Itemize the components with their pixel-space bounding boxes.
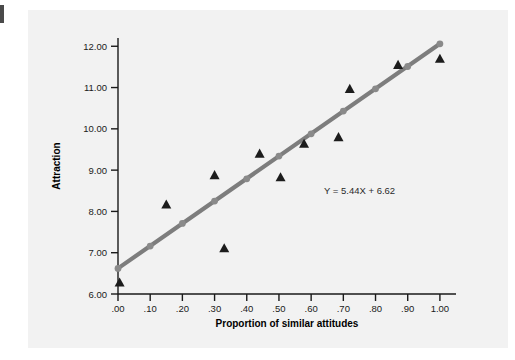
x-tick-label: .80 xyxy=(369,303,382,314)
regression-point-marker xyxy=(243,175,250,182)
regression-point-marker xyxy=(147,243,154,250)
x-tick-label: .00 xyxy=(111,303,124,314)
data-point-triangle xyxy=(393,60,403,69)
data-point-triangle xyxy=(115,277,125,286)
regression-point-marker xyxy=(340,108,347,115)
y-tick-label: 9.00 xyxy=(89,165,108,176)
chart-panel: 6.007.008.009.0010.0011.0012.00 .00.10.2… xyxy=(28,10,508,348)
regression-point-marker xyxy=(372,85,379,92)
y-tick-label: 6.00 xyxy=(89,289,108,300)
x-tick-label: 1.00 xyxy=(431,303,450,314)
x-tick-label: .10 xyxy=(144,303,157,314)
x-tick-label: .90 xyxy=(401,303,414,314)
data-point-markers xyxy=(115,54,445,287)
regression-point-marker xyxy=(179,220,186,227)
data-point-triangle xyxy=(219,243,229,252)
regression-point-marker xyxy=(115,265,122,272)
regression-point-marker xyxy=(276,153,283,160)
data-point-triangle xyxy=(161,199,171,208)
x-tick-label: .50 xyxy=(272,303,285,314)
page-edge-marker xyxy=(0,5,4,23)
data-point-triangle xyxy=(345,84,355,93)
data-point-triangle xyxy=(255,149,265,158)
regression-point-marker xyxy=(211,198,218,205)
x-tick-label: .60 xyxy=(305,303,318,314)
y-tick-label: 8.00 xyxy=(89,206,108,217)
axis-lines xyxy=(118,38,456,294)
data-point-triangle xyxy=(334,132,344,141)
regression-equation-annotation: Y = 5.44X + 6.62 xyxy=(324,185,395,196)
x-tick-label: .20 xyxy=(176,303,189,314)
y-tick-label: 10.00 xyxy=(83,123,107,134)
y-axis-ticks: 6.007.008.009.0010.0011.0012.00 xyxy=(83,41,118,300)
x-axis-ticks: .00.10.20.30.40.50.60.70.80.901.00 xyxy=(111,294,449,314)
x-tick-label: .30 xyxy=(208,303,221,314)
regression-point-marker xyxy=(437,40,444,47)
data-point-triangle xyxy=(210,170,220,179)
x-tick-label: .40 xyxy=(240,303,253,314)
regression-point-marker xyxy=(308,130,315,137)
scatter-plot: 6.007.008.009.0010.0011.0012.00 .00.10.2… xyxy=(28,10,508,348)
y-tick-label: 11.00 xyxy=(84,82,107,93)
figure-canvas: 6.007.008.009.0010.0011.0012.00 .00.10.2… xyxy=(0,0,515,360)
data-point-triangle xyxy=(435,54,445,63)
y-tick-label: 7.00 xyxy=(89,247,108,258)
x-axis-title: Proportion of similar attitudes xyxy=(216,318,359,329)
data-point-triangle xyxy=(276,172,286,181)
y-axis-title: Attraction xyxy=(51,142,62,189)
x-tick-label: .70 xyxy=(337,303,350,314)
y-tick-label: 12.00 xyxy=(83,41,107,52)
regression-point-marker xyxy=(404,63,411,70)
